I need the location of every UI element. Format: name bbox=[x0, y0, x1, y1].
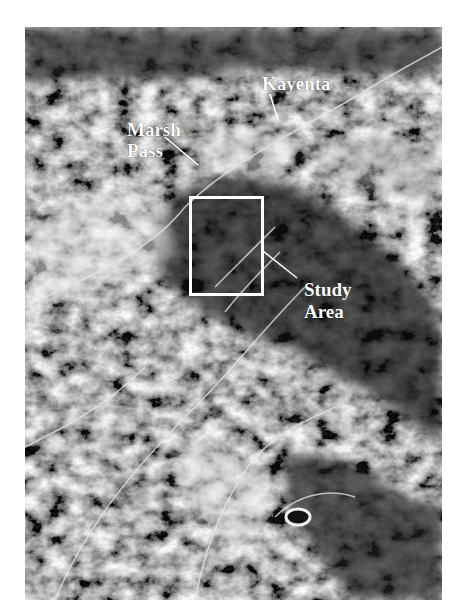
terrain-texture bbox=[25, 27, 442, 600]
satellite-image bbox=[25, 27, 442, 600]
study-area-label-line1: Study bbox=[304, 280, 352, 299]
study-area-label-line2: Area bbox=[304, 302, 344, 321]
kayenta-label: Kayenta bbox=[262, 74, 331, 93]
study-area-box bbox=[189, 196, 264, 296]
marsh-pass-label-line1: Marsh bbox=[127, 120, 181, 139]
marsh-pass-label-line2: Pass bbox=[127, 141, 163, 160]
